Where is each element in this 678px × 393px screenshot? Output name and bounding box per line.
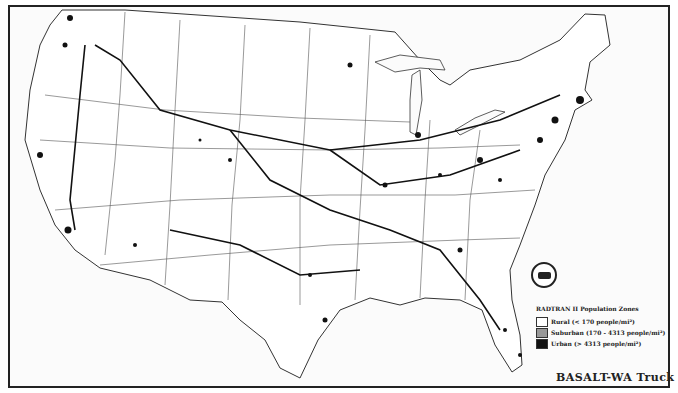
legend-label: Suburban (170 - 4313 people/mi²) bbox=[551, 329, 665, 336]
rural-swatch bbox=[536, 317, 548, 327]
suburban-swatch bbox=[536, 328, 548, 338]
legend-title: RADTRAN II Population Zones bbox=[536, 305, 666, 312]
legend-item-urban: Urban (> 4313 people/mi²) bbox=[536, 338, 666, 349]
us-outline bbox=[25, 10, 610, 378]
legend-item-rural: Rural (< 170 people/mi²) bbox=[536, 316, 666, 327]
legend-label: Urban (> 4313 people/mi²) bbox=[551, 340, 641, 347]
legend-label: Rural (< 170 people/mi²) bbox=[551, 318, 635, 325]
legend-item-suburban: Suburban (170 - 4313 people/mi²) bbox=[536, 327, 666, 338]
agency-seal-icon bbox=[531, 262, 557, 288]
urban-swatch bbox=[536, 339, 548, 349]
map-title: BASALT-WA Truck bbox=[556, 371, 675, 384]
legend: RADTRAN II Population Zones Rural (< 170… bbox=[536, 305, 666, 349]
